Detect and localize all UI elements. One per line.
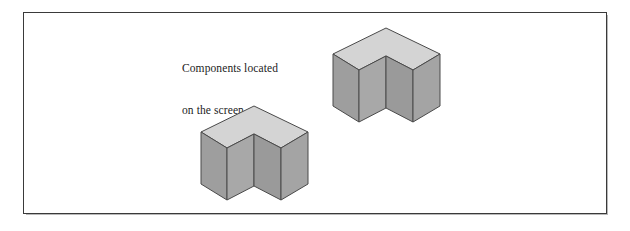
isometric-l-block-upper-right	[328, 26, 446, 126]
l-block-faces	[201, 106, 308, 200]
isometric-l-block-lower-left	[196, 104, 314, 204]
l-block-faces	[333, 28, 440, 122]
figure-root: Components located on the screen	[0, 0, 630, 231]
